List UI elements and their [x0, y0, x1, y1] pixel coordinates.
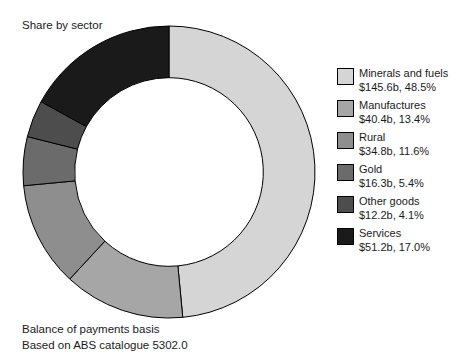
chart-page: Share by sector Minerals and fuels$145.6… — [0, 0, 466, 359]
legend-item[interactable]: Minerals and fuels$145.6b, 48.5% — [337, 67, 466, 94]
legend-swatch-icon — [337, 68, 354, 85]
chart-footnotes: Balance of payments basis Based on ABS c… — [22, 322, 188, 353]
donut-chart — [22, 25, 316, 319]
legend-swatch-icon — [337, 164, 354, 181]
legend-text: Minerals and fuels$145.6b, 48.5% — [359, 67, 466, 94]
legend-label: Gold — [359, 163, 466, 177]
legend-label: Other goods — [359, 195, 466, 209]
legend-swatch-icon — [337, 100, 354, 117]
legend-swatch-icon — [337, 132, 354, 149]
legend-text: Other goods$12.2b, 4.1% — [359, 195, 466, 222]
legend-value: $34.8b, 11.6% — [359, 145, 466, 159]
legend-item[interactable]: Services$51.2b, 17.0% — [337, 227, 466, 254]
legend-item[interactable]: Rural$34.8b, 11.6% — [337, 131, 466, 158]
legend-label: Minerals and fuels — [359, 67, 466, 81]
legend-value: $51.2b, 17.0% — [359, 241, 466, 255]
legend-item[interactable]: Other goods$12.2b, 4.1% — [337, 195, 466, 222]
footnote-line: Based on ABS catalogue 5302.0 — [22, 338, 188, 354]
donut-slice[interactable] — [169, 26, 315, 317]
donut-chart-svg — [22, 25, 316, 319]
legend-text: Services$51.2b, 17.0% — [359, 227, 466, 254]
legend-swatch-icon — [337, 196, 354, 213]
footnote-line: Balance of payments basis — [22, 322, 188, 338]
legend-value: $145.6b, 48.5% — [359, 81, 466, 95]
legend-item[interactable]: Gold$16.3b, 5.4% — [337, 163, 466, 190]
legend-label: Rural — [359, 131, 466, 145]
legend-label: Services — [359, 227, 466, 241]
legend-text: Gold$16.3b, 5.4% — [359, 163, 466, 190]
legend-value: $16.3b, 5.4% — [359, 177, 466, 191]
donut-slice-group — [23, 26, 315, 318]
legend-value: $40.4b, 13.4% — [359, 113, 466, 127]
legend-item[interactable]: Manufactures$40.4b, 13.4% — [337, 99, 466, 126]
legend-swatch-icon — [337, 228, 354, 245]
legend-label: Manufactures — [359, 99, 466, 113]
legend-value: $12.2b, 4.1% — [359, 209, 466, 223]
chart-legend: Minerals and fuels$145.6b, 48.5%Manufact… — [337, 67, 466, 259]
donut-slice[interactable] — [41, 26, 169, 127]
legend-text: Rural$34.8b, 11.6% — [359, 131, 466, 158]
legend-text: Manufactures$40.4b, 13.4% — [359, 99, 466, 126]
